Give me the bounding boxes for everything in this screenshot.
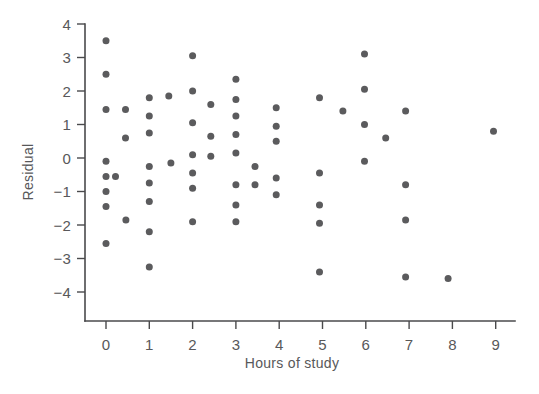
data-point xyxy=(189,151,196,158)
data-point xyxy=(103,173,110,180)
x-tick-label: 4 xyxy=(275,336,284,353)
x-tick-label: 8 xyxy=(448,336,457,353)
data-point xyxy=(112,173,119,180)
data-point xyxy=(252,181,259,188)
y-axis-tick-labels: −4−3−2−101234 xyxy=(53,16,71,301)
data-points-group xyxy=(103,37,498,282)
data-point xyxy=(316,268,323,275)
data-point xyxy=(146,163,153,170)
data-point xyxy=(103,158,110,165)
y-tick-label: −3 xyxy=(53,250,71,267)
data-point xyxy=(445,275,452,282)
data-point xyxy=(146,228,153,235)
plot-canvas: −4−3−2−101234 0123456789 Residual Hours … xyxy=(0,0,539,394)
y-axis-title: Residual xyxy=(20,144,36,201)
data-point xyxy=(402,108,409,115)
data-point xyxy=(339,108,346,115)
data-point xyxy=(146,94,153,101)
x-tick-label: 2 xyxy=(188,336,197,353)
data-point xyxy=(402,273,409,280)
data-point xyxy=(316,170,323,177)
x-tick-label: 5 xyxy=(318,336,327,353)
data-point xyxy=(232,76,239,83)
data-point xyxy=(361,121,368,128)
data-point xyxy=(189,52,196,59)
data-point xyxy=(232,113,239,120)
data-point xyxy=(207,133,214,140)
data-point xyxy=(103,203,110,210)
data-point xyxy=(361,158,368,165)
data-point xyxy=(146,113,153,120)
data-point xyxy=(165,93,172,100)
scatter-plot-figure: −4−3−2−101234 0123456789 Residual Hours … xyxy=(0,0,539,394)
data-point xyxy=(189,185,196,192)
data-point xyxy=(207,101,214,108)
data-point xyxy=(316,201,323,208)
data-point xyxy=(232,131,239,138)
y-tick-label: −4 xyxy=(53,284,71,301)
y-axis-ticks xyxy=(77,24,85,292)
data-point xyxy=(382,134,389,141)
data-point xyxy=(103,240,110,247)
x-axis-ticks xyxy=(106,321,496,329)
data-point xyxy=(232,150,239,157)
data-point xyxy=(122,134,129,141)
data-point xyxy=(252,163,259,170)
data-point xyxy=(146,263,153,270)
y-tick-label: 2 xyxy=(62,83,71,100)
x-tick-label: 6 xyxy=(362,336,371,353)
data-point xyxy=(232,181,239,188)
data-point xyxy=(361,86,368,93)
data-point xyxy=(146,180,153,187)
y-tick-label: 0 xyxy=(62,150,71,167)
data-point xyxy=(402,217,409,224)
y-tick-label: −1 xyxy=(53,183,71,200)
x-tick-label: 0 xyxy=(102,336,111,353)
data-point xyxy=(273,175,280,182)
data-point xyxy=(189,218,196,225)
x-axis-tick-labels: 0123456789 xyxy=(102,336,500,353)
data-point xyxy=(103,71,110,78)
data-point xyxy=(273,191,280,198)
data-point xyxy=(167,160,174,167)
data-point xyxy=(402,181,409,188)
data-point xyxy=(232,218,239,225)
data-point xyxy=(146,129,153,136)
data-point xyxy=(189,88,196,95)
x-tick-label: 1 xyxy=(145,336,154,353)
data-point xyxy=(189,170,196,177)
x-tick-label: 3 xyxy=(232,336,241,353)
data-point xyxy=(316,94,323,101)
y-tick-label: −2 xyxy=(53,217,71,234)
data-point xyxy=(232,96,239,103)
data-point xyxy=(146,198,153,205)
data-point xyxy=(103,188,110,195)
y-tick-label: 4 xyxy=(62,16,71,33)
y-tick-label: 3 xyxy=(62,49,71,66)
data-point xyxy=(316,220,323,227)
data-point xyxy=(273,104,280,111)
data-point xyxy=(490,128,497,135)
x-tick-label: 9 xyxy=(491,336,500,353)
data-point xyxy=(103,106,110,113)
data-point xyxy=(189,119,196,126)
x-axis-title: Hours of study xyxy=(245,355,339,371)
data-point xyxy=(207,153,214,160)
data-point xyxy=(232,201,239,208)
y-tick-label: 1 xyxy=(62,116,71,133)
data-point xyxy=(273,123,280,130)
data-point xyxy=(103,37,110,44)
data-point xyxy=(361,51,368,58)
x-tick-label: 7 xyxy=(405,336,414,353)
data-point xyxy=(122,106,129,113)
data-point xyxy=(273,138,280,145)
data-point xyxy=(122,217,129,224)
